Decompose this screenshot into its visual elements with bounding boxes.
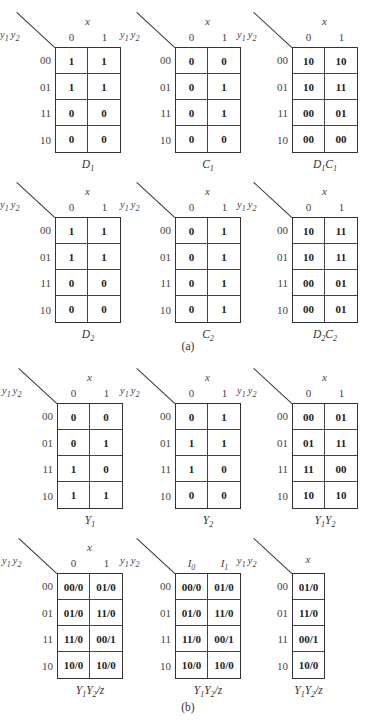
kmap-grid: 0001011111001010 <box>292 403 358 509</box>
kmap-cell: 01/0 <box>208 574 240 600</box>
column-variable-label: x <box>205 371 210 383</box>
kmap-cell: 10 <box>293 74 325 100</box>
kmap-cell: 0 <box>56 100 88 126</box>
kmap-cell: 00 <box>293 270 325 296</box>
row-label: 10 <box>268 304 288 316</box>
row-variable-label: y1 y2 <box>120 199 139 213</box>
kmap-title: Y1Y2/z <box>276 684 342 699</box>
kmap-cell: 00 <box>293 404 325 430</box>
kmap-cell: 0 <box>88 296 120 322</box>
row-variable-label: y1 y2 <box>237 199 256 213</box>
column-label: 1 <box>325 387 358 399</box>
kmap-cell: 0 <box>176 244 208 270</box>
kmap-cell: 1 <box>88 74 120 100</box>
row-label: 01 <box>31 251 51 263</box>
column-variable-label: x <box>205 15 210 27</box>
kmap-cell: 11/0 <box>58 626 90 652</box>
diagonal-divider <box>253 12 292 48</box>
row-label: 00 <box>151 580 171 592</box>
kmap-title: D2C2 <box>292 328 358 343</box>
column-label: 0 <box>55 201 88 213</box>
row-label: 00 <box>33 410 53 422</box>
row-label: 10 <box>31 304 51 316</box>
diagonal-divider <box>136 12 175 48</box>
column-variable-label: x <box>87 541 92 553</box>
kmap-cell: 11/0 <box>176 626 208 652</box>
kmap-cell: 0 <box>208 126 240 152</box>
column-label: 1 <box>90 387 123 399</box>
kmap-cell: 10 <box>293 218 325 244</box>
diagonal-divider <box>136 182 175 218</box>
column-label: 0 <box>57 557 90 569</box>
caption-a: (a) <box>168 340 208 352</box>
diagonal-divider <box>18 538 57 574</box>
column-label: 0 <box>175 387 208 399</box>
kmap-cell: 01/0 <box>58 600 90 626</box>
column-variable-label: x <box>322 371 327 383</box>
kmap-cell: 01 <box>325 100 357 126</box>
kmap-cell: 1 <box>58 456 90 482</box>
kmap-cell: 1 <box>90 430 122 456</box>
row-label: 00 <box>31 224 51 236</box>
kmap-cell: 1 <box>88 244 120 270</box>
kmap-cell: 01 <box>325 404 357 430</box>
kmap-cell: 10/0 <box>176 652 208 678</box>
row-variable-label: y1 y2 <box>0 199 19 213</box>
kmap-cell: 0 <box>208 48 240 74</box>
row-label: 10 <box>31 134 51 146</box>
kmap-cell: 10 <box>293 48 325 74</box>
kmap-cell: 0 <box>90 404 122 430</box>
kmap-cell: 00/1 <box>208 626 240 652</box>
kmap-grid: 00/001/001/011/011/000/110/010/0 <box>175 573 241 679</box>
row-label: 10 <box>151 490 171 502</box>
row-variable-label: y1 y2 <box>120 385 139 399</box>
row-label: 11 <box>151 107 171 119</box>
kmap-cell: 1 <box>88 218 120 244</box>
row-label: 11 <box>268 463 288 475</box>
kmap-title: Y2 <box>175 514 241 529</box>
kmap-cell: 1 <box>176 430 208 456</box>
row-label: 01 <box>151 437 171 449</box>
kmap-cell: 00 <box>325 456 357 482</box>
kmap-cell: 10/0 <box>90 652 122 678</box>
kmap-cell: 1 <box>58 482 90 508</box>
kmap-cell: 0 <box>88 270 120 296</box>
column-label: 1 <box>88 31 121 43</box>
kmap-cell: 1 <box>90 482 122 508</box>
kmap-cell: 10 <box>325 482 357 508</box>
column-label: 0 <box>57 387 90 399</box>
column-variable-label: x <box>87 371 92 383</box>
kmap-cell: 11 <box>325 74 357 100</box>
row-label: 01 <box>151 251 171 263</box>
kmap-cell: 10 <box>325 48 357 74</box>
row-label: 10 <box>151 660 171 672</box>
column-variable-label: x <box>85 15 90 27</box>
diagonal-divider <box>253 182 292 218</box>
row-variable-label: y1 y2 <box>237 555 256 569</box>
kmap-cell: 0 <box>176 270 208 296</box>
row-label: 01 <box>268 437 288 449</box>
kmap-cell: 00 <box>325 126 357 152</box>
kmap-cell: 01/0 <box>293 574 324 600</box>
row-label: 10 <box>33 660 53 672</box>
row-label: 00 <box>151 224 171 236</box>
kmap-cell: 1 <box>56 48 88 74</box>
row-label: 00 <box>268 580 288 592</box>
kmap-cell: 0 <box>88 126 120 152</box>
kmap-cell: 00/1 <box>90 626 122 652</box>
row-label: 01 <box>33 607 53 619</box>
kmap-cell: 1 <box>208 218 240 244</box>
row-label: 00 <box>33 580 53 592</box>
column-variable-label: x <box>322 185 327 197</box>
column-label: I0 <box>175 557 208 572</box>
kmap-grid: 01111000 <box>175 403 241 509</box>
kmap-title: C1 <box>175 158 241 173</box>
column-label: 0 <box>292 201 325 213</box>
kmap-cell: 0 <box>176 482 208 508</box>
column-variable-label: x <box>205 185 210 197</box>
kmap-cell: 0 <box>88 100 120 126</box>
diagonal-divider <box>16 182 55 218</box>
kmap-cell: 00 <box>293 126 325 152</box>
kmap-cell: 10 <box>293 482 325 508</box>
kmap-cell: 00 <box>293 296 325 322</box>
